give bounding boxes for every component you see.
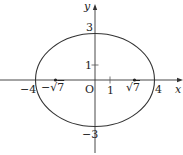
radicand: 7 [133,81,140,94]
y-tick-label-1: 1 [85,60,92,71]
minus-sign: − [41,81,50,94]
y-tick-label-3: 3 [86,22,93,33]
x-tick-label-neg-sqrt7: −√7 [41,82,64,93]
origin-label: O [85,84,94,95]
radical-icon: √ [126,81,133,94]
y-tick-label-neg3: −3 [82,129,98,140]
x-tick-label-sqrt7: √7 [126,82,140,93]
x-tick-label-neg4: −4 [20,84,36,95]
radicand: 7 [57,81,64,94]
x-axis-arrow-icon [177,78,183,82]
x-tick-label-4: 4 [155,84,162,95]
x-axis-label: x [175,84,181,95]
y-axis-label: y [84,1,90,12]
x-tick-label-1: 1 [107,85,114,96]
y-axis-arrow-icon [93,4,97,10]
